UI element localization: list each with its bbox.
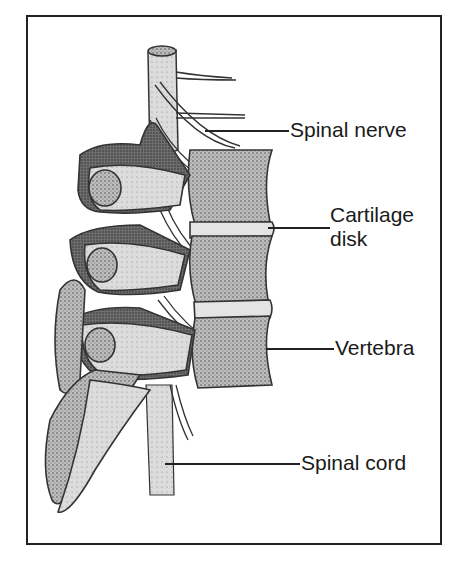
leader-spinal-nerve: [205, 130, 289, 132]
leader-cartilage-disk: [268, 227, 330, 229]
label-vertebra: Vertebra: [335, 336, 414, 360]
spine-illustration: [0, 0, 453, 562]
label-spinal-nerve: Spinal nerve: [290, 118, 407, 142]
vertebral-bodies: [188, 150, 274, 388]
leader-spinal-cord: [165, 463, 300, 465]
label-cartilage-line2: disk: [330, 227, 414, 251]
label-cartilage-line1: Cartilage: [330, 203, 414, 227]
label-cartilage-disk: Cartilage disk: [330, 203, 414, 251]
label-spinal-cord: Spinal cord: [301, 451, 406, 475]
leader-vertebra: [266, 348, 334, 350]
